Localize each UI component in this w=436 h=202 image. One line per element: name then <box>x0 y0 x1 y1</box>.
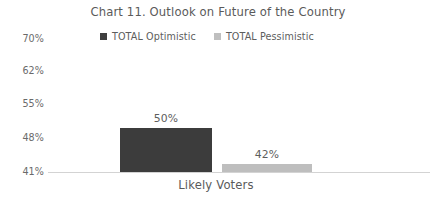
category-axis-line <box>48 172 430 173</box>
y-axis-tick-55: 55% <box>4 98 44 109</box>
chart-container: Chart 11. Outlook on Future of the Count… <box>0 0 436 202</box>
y-axis-tick-48: 48% <box>4 132 44 143</box>
x-axis-category-label: Likely Voters <box>126 178 306 192</box>
plot-area: 70% 62% 55% 48% 41% 50% 42% Likely Voter… <box>0 0 436 202</box>
y-axis-tick-62: 62% <box>4 65 44 76</box>
y-axis-tick-41: 41% <box>4 166 44 177</box>
y-axis-tick-70: 70% <box>4 33 44 44</box>
bar-pessimistic[interactable] <box>222 164 312 172</box>
data-label-optimistic: 50% <box>154 112 178 125</box>
data-label-pessimistic: 42% <box>255 148 279 161</box>
bar-optimistic[interactable] <box>120 128 212 172</box>
